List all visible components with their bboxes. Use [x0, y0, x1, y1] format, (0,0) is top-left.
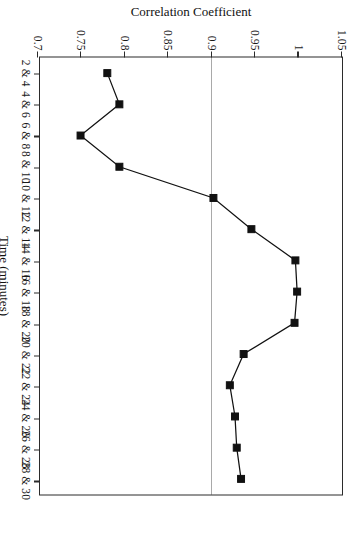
x-axis-tick-label: 2 & 4 [20, 59, 32, 86]
y-axis-tick-label: 0.85 [162, 29, 174, 50]
y-axis-tick [341, 51, 342, 57]
data-point-marker [291, 319, 298, 326]
y-axis-tick-label: 0.9 [206, 35, 218, 50]
y-axis-tick [167, 51, 168, 57]
y-axis-tick-label: 0.95 [249, 29, 261, 50]
data-point-marker [240, 350, 247, 357]
series-overlay [40, 57, 342, 494]
x-axis-tick-label: 6 & 8 [20, 122, 32, 149]
y-axis-tick [37, 51, 38, 57]
y-axis-tick [80, 51, 81, 57]
x-axis-title: Time (minutes) [0, 56, 12, 495]
y-axis-tick-label: 0.75 [75, 29, 87, 50]
rotated-figure-wrapper: Correlation Coefficient 0.70.750.80.850.… [0, 0, 364, 549]
y-axis-title-label: Correlation Coefficient [131, 3, 252, 19]
data-point-marker [232, 412, 239, 419]
plot-inner: 0.70.750.80.850.90.9511.05 2 & 44 & 66 &… [40, 57, 342, 494]
x-axis-tick-label: 4 & 6 [20, 91, 32, 118]
data-point-marker [248, 225, 255, 232]
y-axis-tick [297, 51, 298, 57]
y-axis-tick [211, 51, 212, 57]
data-point-marker [226, 381, 233, 388]
plot-area: 0.70.750.80.850.90.9511.05 2 & 44 & 66 &… [39, 56, 343, 495]
y-axis-tick [124, 51, 125, 57]
data-point-marker [77, 132, 84, 139]
y-axis-tick-label: 0.7 [32, 35, 44, 50]
data-point-marker [233, 444, 240, 451]
data-point-marker [104, 69, 111, 76]
data-point-marker [210, 194, 217, 201]
x-axis-title-label: Time (minutes) [0, 235, 12, 315]
data-point-marker [294, 288, 301, 295]
x-axis-tick-label: 28 & 30 [20, 461, 32, 499]
y-axis-tick-label: 1 [293, 44, 305, 50]
data-point-marker [292, 256, 299, 263]
data-point-marker [116, 163, 123, 170]
series-line-correlation [81, 73, 298, 479]
data-point-marker [238, 475, 245, 482]
y-axis-tick-label: 0.8 [119, 35, 131, 50]
x-axis-tick-label: 8 & 10 [20, 150, 32, 183]
correlation-coefficient-line-chart: Correlation Coefficient 0.70.750.80.850.… [0, 0, 364, 549]
y-axis-tick-label: 1.05 [336, 29, 348, 50]
y-axis-title: Correlation Coefficient [39, 0, 343, 22]
y-axis-tick [254, 51, 255, 57]
series-markers [77, 69, 301, 482]
data-point-marker [116, 100, 123, 107]
